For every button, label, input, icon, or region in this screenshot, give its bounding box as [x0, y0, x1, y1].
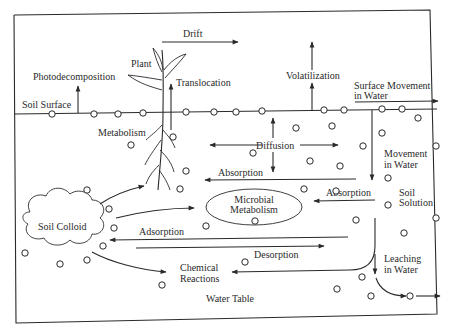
label-metabolism: Metabolism: [98, 127, 146, 138]
colloid-to-microbial-arrow: [116, 208, 194, 218]
pesticide-molecules: [22, 106, 439, 299]
label-movement-in-water-2: in Water: [384, 159, 418, 170]
colloid-to-chemical-arrow: [92, 252, 166, 272]
label-adsorption: Adsorption: [139, 226, 184, 237]
label-leaching-1: Leaching: [384, 253, 421, 264]
absorption-microbial-arrow: [314, 200, 375, 201]
label-leaching-2: in Water: [384, 264, 418, 275]
label-volatilization: Volatilization: [286, 70, 340, 81]
label-chemical-reactions-1: Chemical: [180, 262, 219, 273]
label-soil-solution-2: Solution: [399, 197, 433, 208]
colloid-to-root-arrow: [100, 186, 144, 204]
label-surface-movement-2: in Water: [354, 90, 388, 101]
surface-movement-arrow: [355, 101, 438, 102]
label-soil-surface: Soil Surface: [22, 99, 72, 110]
label-movement-in-water-1: Movement: [384, 148, 428, 159]
soil-colloid-node: [23, 188, 104, 245]
solution-to-chemical-arrow: [232, 218, 375, 272]
label-photodecomposition: Photodecomposition: [33, 71, 115, 82]
plant-icon: [128, 48, 186, 190]
label-chemical-reactions-2: Reactions: [180, 273, 220, 284]
label-water-table: Water Table: [206, 293, 255, 304]
label-absorption-root: Absorption: [218, 167, 263, 178]
label-desorption: Desorption: [254, 249, 298, 260]
label-drift: Drift: [183, 28, 203, 39]
adsorption-arrow: [110, 237, 348, 240]
label-diffusion: Diffusion: [256, 140, 294, 151]
label-microbial-metabolism-2: Metabolism: [230, 204, 278, 215]
label-soil-colloid: Soil Colloid: [38, 221, 87, 232]
label-plant: Plant: [131, 58, 152, 69]
absorption-root-arrow: [205, 179, 356, 180]
label-translocation: Translocation: [176, 77, 231, 88]
desorption-arrow: [136, 246, 324, 248]
pesticide-fate-diagram: Soil Surface Photodecomposition Plant Dr…: [0, 0, 456, 332]
